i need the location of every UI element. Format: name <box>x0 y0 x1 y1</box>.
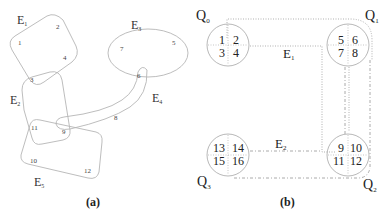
q3-cell-15: 15 <box>213 154 225 168</box>
connector-q3-q2-bottom <box>234 168 370 178</box>
vertex-3: 3 <box>30 76 34 84</box>
vertex-2: 2 <box>56 23 60 31</box>
q0-cell-3: 3 <box>219 46 225 60</box>
hyperedge-e5-label: E5 <box>34 175 44 189</box>
hyperedge-e4-hull <box>56 67 147 129</box>
panel-b: 1 2 3 4 Q0 5 6 7 8 Q1 9 10 11 12 Q2 13 1… <box>196 8 379 209</box>
edge-e1-label: E1 <box>283 46 295 62</box>
hyperedge-e3-label: E3 <box>131 18 141 32</box>
partition-q1-cross <box>328 25 368 65</box>
vertex-1: 1 <box>18 39 22 47</box>
panel-a-caption: (a) <box>86 195 100 209</box>
vertex-11: 11 <box>31 124 38 132</box>
partition-q1-label: Q1 <box>365 8 379 25</box>
partition-q0-label: Q0 <box>196 8 210 25</box>
q2-cell-12: 12 <box>350 154 362 168</box>
q0-cell-1: 1 <box>219 33 225 47</box>
vertex-6: 6 <box>137 72 141 80</box>
q2-cell-10: 10 <box>350 141 362 155</box>
q3-cell-13: 13 <box>213 141 225 155</box>
panel-a: E1 E2 E3 E4 E5 1 2 3 4 5 6 7 8 9 10 11 1… <box>10 13 188 209</box>
vertex-8: 8 <box>114 114 118 122</box>
hyperedge-e2-label: E2 <box>10 93 20 107</box>
q1-cell-6: 6 <box>352 33 358 47</box>
hyperedge-e3-hull <box>108 29 188 77</box>
partition-q2-label: Q2 <box>363 177 377 194</box>
q0-cell-4: 4 <box>233 46 239 60</box>
q3-cell-14: 14 <box>232 141 244 155</box>
panel-b-caption: (b) <box>280 195 295 209</box>
vertex-12: 12 <box>84 167 92 175</box>
vertex-7: 7 <box>120 45 124 53</box>
connector-q0-q1-outer <box>227 19 372 60</box>
q3-cell-16: 16 <box>232 154 244 168</box>
hyperedge-e1-label: E1 <box>17 13 27 27</box>
vertex-5: 5 <box>172 39 176 47</box>
edge-e2-label: E2 <box>275 136 287 152</box>
q2-cell-9: 9 <box>338 141 344 155</box>
hypergraph-figure: E1 E2 E3 E4 E5 1 2 3 4 5 6 7 8 9 10 11 1… <box>0 0 386 219</box>
vertex-10: 10 <box>30 157 38 165</box>
q1-cell-7: 7 <box>338 46 344 60</box>
vertex-4: 4 <box>63 54 67 62</box>
partition-q0-cross <box>208 25 248 65</box>
q2-cell-11: 11 <box>333 154 345 168</box>
q1-cell-5: 5 <box>338 33 344 47</box>
partition-q3-label: Q3 <box>197 174 211 191</box>
hyperedge-e4-label: E4 <box>152 91 162 105</box>
q1-cell-8: 8 <box>352 46 358 60</box>
vertex-9: 9 <box>62 128 66 136</box>
q0-cell-2: 2 <box>233 33 239 47</box>
